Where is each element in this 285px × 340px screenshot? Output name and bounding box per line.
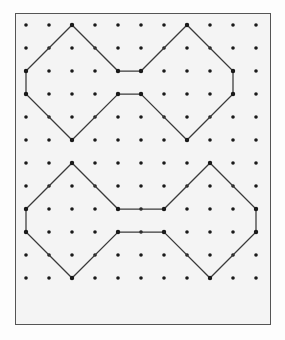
grid-dot [116,276,120,280]
grid-dot [208,184,212,188]
grid-dot [254,115,258,119]
grid-dot [116,253,120,257]
top-bowtie-vertex [24,69,28,73]
grid-dot [24,23,28,27]
grid-dot [254,46,258,50]
bottom-bowtie-vertex [24,230,28,234]
grid-dot [93,230,97,234]
grid-dot [208,69,212,73]
grid-dot [47,276,51,280]
bottom-bowtie-vertex [70,276,74,280]
grid-dot [70,253,74,257]
grid-dot [162,69,166,73]
grid-dot [47,23,51,27]
shape-outline-layer [26,25,256,278]
grid-dot [185,161,189,165]
grid-dot [24,161,28,165]
grid-dot [24,253,28,257]
grid-dot [70,115,74,119]
grid-dot [185,69,189,73]
grid-dot [70,69,74,73]
grid-dot [162,276,166,280]
grid-dot [208,92,212,96]
grid-dot-layer [24,23,258,280]
grid-dot [24,115,28,119]
grid-dot [162,23,166,27]
grid-dot [93,138,97,142]
grid-dot [162,92,166,96]
grid-dot [208,230,212,234]
grid-dot [139,23,143,27]
grid-dot [116,161,120,165]
grid-dot [185,92,189,96]
grid-dot [162,253,166,257]
grid-dot [254,69,258,73]
top-bowtie-vertex [185,23,189,27]
bottom-bowtie-vertex [116,230,120,234]
top-bowtie-vertex [139,69,143,73]
grid-dot [47,92,51,96]
grid-dot [47,161,51,165]
grid-dot [254,161,258,165]
grid-dot [93,92,97,96]
grid-dot [185,276,189,280]
bottom-bowtie-vertex [70,161,74,165]
grid-dot [231,23,235,27]
grid-dot [93,23,97,27]
grid-dot [162,161,166,165]
bottom-bowtie-vertex [254,207,258,211]
grid-dot [116,184,120,188]
grid-dot [139,276,143,280]
bottom-bowtie-vertex [24,207,28,211]
grid-dot [70,207,74,211]
diagram-page [0,0,285,340]
grid-dot [185,115,189,119]
grid-dot [185,46,189,50]
top-bowtie-vertex [70,138,74,142]
top-bowtie [26,25,233,140]
grid-dot [24,46,28,50]
grid-dot [162,138,166,142]
bottom-bowtie-vertex [208,161,212,165]
grid-dot [24,138,28,142]
top-bowtie-vertex [231,92,235,96]
top-bowtie-vertex [24,92,28,96]
grid-dot [24,184,28,188]
grid-dot [70,46,74,50]
bottom-bowtie-vertex [162,230,166,234]
grid-dot [47,69,51,73]
grid-dot [93,161,97,165]
grid-dot [116,115,120,119]
grid-dot [254,138,258,142]
grid-dot [116,46,120,50]
grid-dot [116,23,120,27]
grid-dot [254,253,258,257]
grid-dot [139,161,143,165]
grid-dot [93,69,97,73]
bottom-bowtie-vertex [208,276,212,280]
top-bowtie-vertex [231,69,235,73]
grid-dot [139,115,143,119]
grid-dot [93,276,97,280]
grid-dot [231,46,235,50]
grid-dot [254,23,258,27]
grid-dot [24,276,28,280]
grid-dot [116,138,120,142]
grid-dot [208,23,212,27]
bottom-bowtie-vertex [116,207,120,211]
top-bowtie-vertex [185,138,189,142]
grid-dot [93,207,97,211]
grid-dot [139,46,143,50]
grid-dot [231,276,235,280]
grid-dot [231,230,235,234]
grid-dot [47,230,51,234]
top-bowtie-vertex [116,92,120,96]
grid-dot [139,138,143,142]
top-bowtie-vertex [70,23,74,27]
grid-dot [231,115,235,119]
grid-dot [47,138,51,142]
top-bowtie-vertex [139,92,143,96]
bottom-bowtie-vertex [162,207,166,211]
grid-dot [208,253,212,257]
grid-dot [70,230,74,234]
